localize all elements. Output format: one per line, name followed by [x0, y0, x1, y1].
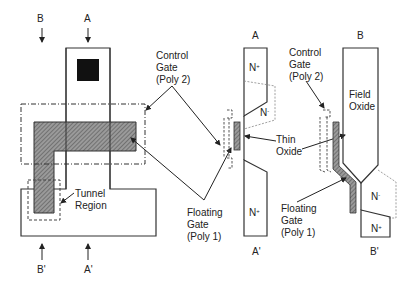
- section-B-n-minus: N-: [371, 191, 380, 203]
- section-A-top-label: A: [252, 30, 259, 42]
- section-A-bottom-label: A': [252, 246, 261, 258]
- label-control-gate-1: Control Gate (Poly 2): [156, 50, 190, 86]
- field-oxide: [343, 48, 378, 183]
- label-floating-gate-1: Floating Gate (Poly 1): [187, 207, 223, 243]
- label-tunnel-region: Tunnel Region: [75, 188, 107, 212]
- label-thin-oxide: Thin Oxide: [276, 134, 302, 158]
- memory-cell-diagram: B A B' A' Control Gate (Poly 2) Tunnel R…: [0, 0, 412, 284]
- section-A-n-plus-bottom: N+: [249, 207, 260, 219]
- label-A-prime: A': [84, 264, 93, 276]
- label-control-gate-2: Control Gate (Poly 2): [289, 47, 323, 83]
- section-A-floating-gate: [234, 122, 240, 150]
- label-floating-gate-2: Floating Gate (Poly 1): [281, 203, 317, 239]
- label-B: B: [37, 13, 44, 25]
- section-B-top-label: B: [357, 30, 364, 42]
- section-B-bottom-label: B': [370, 246, 379, 258]
- contact: [77, 59, 99, 81]
- label-field-oxide: Field Oxide: [349, 89, 375, 113]
- section-A-n-minus: N-: [260, 107, 269, 119]
- section-A-n-plus-top: N+: [249, 62, 260, 74]
- label-A: A: [84, 13, 91, 25]
- section-B-n-plus: N+: [371, 223, 382, 235]
- label-B-prime: B': [37, 264, 46, 276]
